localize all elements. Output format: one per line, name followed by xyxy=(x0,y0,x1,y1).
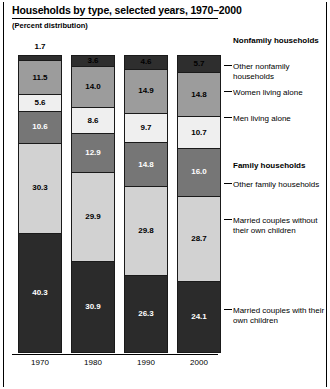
bar-segment: 12.9 xyxy=(71,133,115,171)
segment-value-label: 12.9 xyxy=(85,149,101,157)
legend-entry-men-living-alone: Men living alone xyxy=(233,114,325,124)
segment-value-label: 26.3 xyxy=(138,310,154,318)
legend-entry-women-living-alone: Women living alone xyxy=(233,88,325,98)
bar-segment: 24.1 xyxy=(177,281,221,353)
segment-value-label: 10.7 xyxy=(191,129,207,137)
bar-1970: 11.55.610.630.340.3 xyxy=(18,55,62,353)
bar-segment: 10.7 xyxy=(177,116,221,148)
bar-1990: 4.614.99.714.829.826.3 xyxy=(124,55,168,353)
segment-value-label: 40.3 xyxy=(32,289,48,297)
bar-segment: 28.7 xyxy=(177,196,221,282)
x-axis-line xyxy=(12,354,218,355)
segment-value-label: 24.1 xyxy=(191,313,207,321)
bar-segment: 14.8 xyxy=(124,142,168,186)
legend-entry-married-couples-without-own-children: Married couples without their own childr… xyxy=(233,216,325,235)
title-underline xyxy=(12,18,218,19)
bar-segment: 14.8 xyxy=(177,72,221,116)
chart-title: Households by type, selected years, 1970… xyxy=(12,4,242,16)
segment-value-label: 14.8 xyxy=(191,91,207,99)
x-axis-tick-labels: 1970198019902000 xyxy=(12,358,218,372)
plot-area: 1.711.55.610.630.340.33.614.08.612.929.9… xyxy=(12,55,218,353)
bar-segment: 14.9 xyxy=(124,69,168,113)
segment-value-label: 5.6 xyxy=(34,99,45,107)
figure-right-rule xyxy=(326,2,327,387)
x-axis-label-1990: 1990 xyxy=(124,358,168,367)
legend-group-family-households: Family households xyxy=(233,161,325,171)
segment-value-label-outside: 1.7 xyxy=(18,42,62,51)
bar-segment: 5.6 xyxy=(18,94,62,111)
legend-leader-line xyxy=(224,219,232,220)
segment-value-label: 9.7 xyxy=(140,124,151,132)
segment-value-label: 30.3 xyxy=(32,184,48,192)
legend-leader-line xyxy=(224,65,232,66)
bar-segment: 4.6 xyxy=(124,55,168,69)
bar-segment: 30.3 xyxy=(18,143,62,233)
bar-segment: 3.6 xyxy=(71,55,115,66)
bar-segment: 26.3 xyxy=(124,275,168,353)
x-axis-label-1970: 1970 xyxy=(18,358,62,367)
segment-value-label: 8.6 xyxy=(87,117,98,125)
segment-value-label: 14.9 xyxy=(138,87,154,95)
segment-value-label: 4.6 xyxy=(140,58,151,66)
bar-segment: 5.7 xyxy=(177,55,221,72)
bar-segment: 9.7 xyxy=(124,113,168,142)
legend-leader-line xyxy=(224,183,232,184)
legend-entry-other-nonfamily-households: Other nonfamily households xyxy=(233,62,325,81)
segment-value-label: 3.6 xyxy=(87,57,98,65)
bar-segment: 16.0 xyxy=(177,148,221,196)
bar-segment: 29.9 xyxy=(71,172,115,261)
segment-value-label: 29.8 xyxy=(138,227,154,235)
bar-segment: 10.6 xyxy=(18,111,62,143)
figure-left-rule xyxy=(3,2,4,387)
bar-1980: 3.614.08.612.929.930.9 xyxy=(71,55,115,353)
bar-segment: 14.0 xyxy=(71,66,115,108)
chart-legend: Nonfamily householdsFamily householdsOth… xyxy=(224,36,324,356)
bar-segment: 30.9 xyxy=(71,261,115,353)
segment-value-label: 5.7 xyxy=(193,60,204,68)
chart-subtitle: (Percent distribution) xyxy=(12,21,88,30)
x-axis-label-1980: 1980 xyxy=(71,358,115,367)
bar-segment: 8.6 xyxy=(71,107,115,133)
segment-value-label: 14.8 xyxy=(138,161,154,169)
segment-value-label: 28.7 xyxy=(191,235,207,243)
bar-segment: 11.5 xyxy=(18,60,62,94)
segment-value-label: 14.0 xyxy=(85,83,101,91)
bar-2000: 5.714.810.716.028.724.1 xyxy=(177,55,221,353)
segment-value-label: 29.9 xyxy=(85,213,101,221)
bar-segment: 29.8 xyxy=(124,186,168,275)
segment-value-label: 10.6 xyxy=(32,123,48,131)
segment-value-label: 11.5 xyxy=(32,74,47,82)
bar-segment: 40.3 xyxy=(18,233,62,353)
segment-value-label: 30.9 xyxy=(85,303,101,311)
legend-leader-line xyxy=(224,91,232,92)
legend-leader-line xyxy=(224,117,232,118)
segment-value-label: 16.0 xyxy=(191,168,207,176)
chart-figure: Households by type, selected years, 1970… xyxy=(0,0,330,389)
legend-entry-married-couples-with-own-children: Married couples with their own children xyxy=(233,306,325,325)
legend-leader-line xyxy=(224,309,232,310)
x-axis-label-2000: 2000 xyxy=(177,358,221,367)
legend-group-nonfamily-households: Nonfamily households xyxy=(233,36,325,46)
legend-entry-other-family-households: Other family households xyxy=(233,180,325,190)
